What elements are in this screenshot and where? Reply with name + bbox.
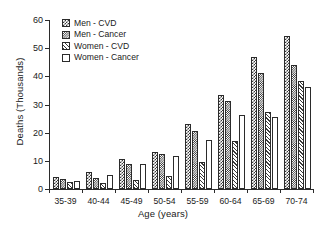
bar[interactable] [126,164,132,189]
x-tick-mark [247,189,248,193]
bar[interactable] [140,164,146,189]
bar-group [182,20,215,189]
y-tick-mark [45,105,49,106]
y-tick-label: 0 [38,185,43,194]
bar[interactable] [258,73,264,189]
legend-item[interactable]: Women - CVD [62,41,139,51]
legend-swatch [62,31,70,39]
legend-label: Men - CVD [74,19,117,28]
x-tick-mark [49,189,50,193]
bar[interactable] [284,36,290,189]
bar[interactable] [60,179,66,189]
bar[interactable] [239,115,245,189]
legend-label: Women - Cancer [74,53,139,62]
x-axis-title: Age (years) [0,208,326,219]
bar-group [215,20,248,189]
y-tick-label: 40 [33,72,43,81]
x-tick-label: 50-54 [154,197,176,206]
bar[interactable] [305,87,311,189]
bar[interactable] [232,141,238,189]
x-tick-label: 55-59 [187,197,209,206]
bar-group [149,20,182,189]
legend-label: Men - Cancer [74,30,126,39]
y-tick-mark [45,76,49,77]
bar[interactable] [152,152,158,189]
bar[interactable] [93,178,99,189]
y-axis-title: Deaths (Thousands) [14,27,25,177]
bar[interactable] [86,172,92,189]
legend: Men - CVDMen - CancerWomen - CVDWomen - … [62,18,139,63]
y-tick-label: 20 [33,128,43,137]
legend-label: Women - CVD [74,42,129,51]
legend-item[interactable]: Women - Cancer [62,53,139,63]
bar[interactable] [67,182,73,189]
x-tick-label: 65-69 [253,197,275,206]
bar-group [281,20,314,189]
bar[interactable] [185,124,191,189]
legend-swatch [62,42,70,50]
y-tick-label: 60 [33,16,43,25]
bar[interactable] [173,156,179,189]
bar[interactable] [298,81,304,189]
y-tick-label: 10 [33,156,43,165]
legend-item[interactable]: Men - Cancer [62,30,139,40]
x-tick-label: 35-39 [55,197,77,206]
bar[interactable] [159,154,165,189]
bar[interactable] [53,177,59,189]
bar[interactable] [206,140,212,189]
bar[interactable] [218,95,224,189]
x-tick-mark [148,189,149,193]
legend-item[interactable]: Men - CVD [62,18,139,28]
y-tick-label: 30 [33,100,43,109]
y-tick-mark [45,48,49,49]
bar[interactable] [166,176,172,189]
y-tick-mark [45,133,49,134]
x-tick-label: 40-44 [88,197,110,206]
bar[interactable] [133,180,139,189]
x-tick-mark [181,189,182,193]
bar-chart: Deaths (Thousands) Age (years) 010203040… [0,0,326,228]
bar[interactable] [225,101,231,189]
legend-swatch [62,54,70,62]
y-tick-label: 50 [33,44,43,53]
x-tick-label: 45-49 [121,197,143,206]
bar[interactable] [251,57,257,189]
bar[interactable] [107,175,113,189]
bar[interactable] [291,65,297,189]
bar-group [248,20,281,189]
bar[interactable] [199,162,205,189]
bar[interactable] [272,117,278,189]
x-tick-label: 70-74 [286,197,308,206]
bar[interactable] [192,131,198,189]
x-tick-mark [115,189,116,193]
bar[interactable] [119,159,125,189]
legend-swatch [62,19,70,27]
bar[interactable] [74,181,80,189]
x-tick-label: 60-64 [220,197,242,206]
bar[interactable] [265,112,271,189]
x-tick-mark [313,189,314,193]
x-tick-mark [280,189,281,193]
bar[interactable] [100,183,106,189]
x-tick-mark [214,189,215,193]
y-tick-mark [45,20,49,21]
y-tick-mark [45,161,49,162]
x-tick-mark [82,189,83,193]
